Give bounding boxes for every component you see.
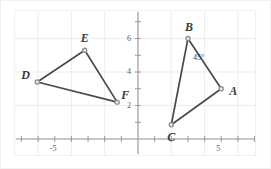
coordinate-plane-figure: -55246ABCDEF45° (0, 0, 271, 169)
vertex-label-d: D (21, 69, 30, 81)
vertex-label-b: B (185, 21, 193, 33)
vertex-point-e (83, 48, 87, 52)
y-tick-label: 6 (127, 35, 131, 43)
vertex-label-a: A (229, 85, 237, 97)
vertex-point-c (169, 123, 173, 127)
vertex-point-d (35, 80, 39, 84)
vertex-label-c: C (167, 131, 175, 143)
y-tick-label: 4 (127, 68, 131, 76)
vertex-point-f (115, 100, 119, 104)
angle-b-45: 45° (193, 54, 204, 62)
x-tick-label: -5 (50, 145, 57, 153)
vertex-point-b (186, 36, 190, 40)
y-tick-label: 2 (127, 102, 131, 110)
vertex-label-e: E (81, 32, 89, 44)
vertex-label-f: F (121, 89, 129, 101)
x-tick-label: 5 (216, 145, 220, 153)
vertex-point-a (219, 87, 223, 91)
